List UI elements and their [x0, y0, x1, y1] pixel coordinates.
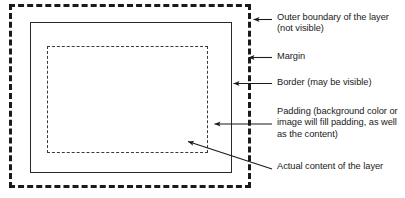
label-padding: Padding (background color or image will …	[277, 106, 403, 140]
label-content: Actual content of the layer	[277, 161, 403, 172]
label-outer-boundary: Outer boundary of the layer (not visible…	[277, 12, 403, 35]
box-model-diagram: Outer boundary of the layer (not visible…	[0, 0, 405, 198]
label-margin: Margin	[277, 51, 403, 62]
arrow-content	[188, 142, 272, 170]
label-border: Border (may be visible)	[277, 77, 403, 88]
